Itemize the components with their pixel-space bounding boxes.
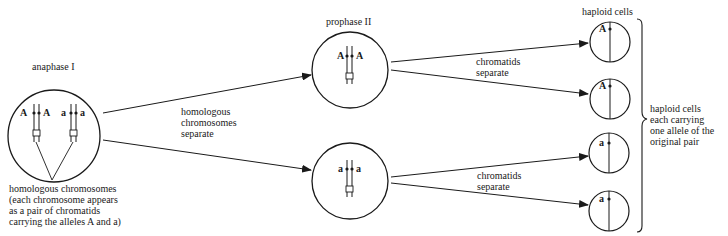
haploid-cell-3 [589,133,629,173]
haploid-cell-2 [590,79,630,119]
anaphase-I-title: anaphase I [32,61,74,72]
brace-icon [637,19,647,232]
allele-label: a [61,107,66,118]
homologous-chromosomes-note: homologous chromosomes (each chromosome … [9,183,121,227]
allele-label: A [599,23,606,34]
chromatids-separate-bottom-label: chromatids separate [477,170,521,192]
allele-label: a [80,107,85,118]
allele-label: a [599,137,604,148]
haploid-cell-1 [590,22,630,62]
chromosome-A-pair-icon [32,104,40,142]
homologous-separate-label: homologous chromosomes separate [181,106,237,139]
allele-label: a [599,193,604,204]
haploid-cells-title: haploid cells [582,6,633,17]
allele-label: A [337,50,344,61]
allele-label: A [599,80,606,91]
allele-label: A [20,107,27,118]
chromosome-a-pair-icon [69,104,77,142]
anaphase-I-cell [8,90,100,182]
allele-label: a [356,163,361,174]
prophase-II-top-cell [312,32,388,108]
allele-label: a [338,163,343,174]
prophase-II-bottom-cell [312,143,388,219]
haploid-cell-4 [589,191,629,231]
allele-label: A [43,107,50,118]
haploid-cells-note: haploid cells each carrying one allele o… [650,103,714,147]
prophase-II-title: prophase II [326,16,371,27]
chromatids-separate-top-label: chromatids separate [476,56,520,78]
allele-label: A [356,50,363,61]
